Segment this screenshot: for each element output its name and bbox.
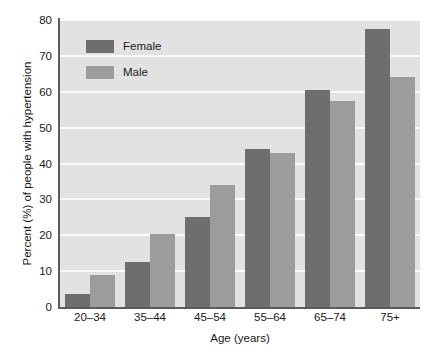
bar — [270, 153, 295, 307]
legend-swatch-female — [86, 40, 114, 53]
bar — [150, 234, 175, 307]
y-axis-tick-label: 30 — [22, 193, 52, 205]
legend: Female Male — [86, 33, 226, 85]
bar — [305, 90, 330, 307]
legend-label-female: Female — [123, 40, 161, 52]
bar — [245, 149, 270, 307]
legend-item-female: Female — [86, 33, 226, 59]
x-axis-tick-label: 55–64 — [254, 311, 286, 323]
y-axis-tick-label: 70 — [22, 50, 52, 62]
y-axis-tick-label: 80 — [22, 14, 52, 26]
y-axis-tick-label: 60 — [22, 86, 52, 98]
bar — [330, 101, 355, 307]
bar — [365, 29, 390, 307]
x-axis-tick-label: 75+ — [380, 311, 400, 323]
x-axis-line — [58, 307, 420, 309]
x-axis-tick-label: 45–54 — [194, 311, 226, 323]
bar-chart: Percent (%) of people with hypertension … — [0, 0, 437, 359]
bar — [90, 275, 115, 307]
y-axis-tick-label: 20 — [22, 229, 52, 241]
bar — [125, 262, 150, 307]
bar — [210, 185, 235, 307]
legend-item-male: Male — [86, 59, 226, 85]
legend-label-male: Male — [123, 66, 148, 78]
x-axis-tick-label: 35–44 — [134, 311, 166, 323]
bar — [65, 294, 90, 307]
x-axis-tick-label: 65–74 — [314, 311, 346, 323]
y-axis-tick-label: 40 — [22, 158, 52, 170]
bar — [390, 77, 415, 307]
legend-swatch-male — [86, 66, 114, 79]
y-axis-tick-label: 10 — [22, 265, 52, 277]
x-axis-tick-labels: 20–3435–4445–5455–6465–7475+ — [60, 311, 420, 327]
y-axis-tick-label: 50 — [22, 122, 52, 134]
y-axis-tick-label: 0 — [22, 301, 52, 313]
bar — [185, 217, 210, 307]
y-axis-tick-labels: 01020304050607080 — [22, 20, 56, 307]
x-axis-title: Age (years) — [60, 332, 420, 344]
x-axis-tick-label: 20–34 — [74, 311, 106, 323]
